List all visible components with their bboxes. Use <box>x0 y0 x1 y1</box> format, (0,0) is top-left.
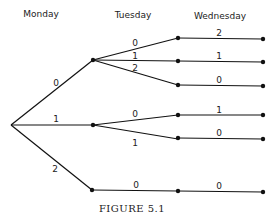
node-end-a2 <box>261 84 265 88</box>
node-wed-c0 <box>176 189 180 193</box>
node-end-b0 <box>261 113 265 117</box>
node-end-a1 <box>261 60 265 64</box>
node-wed-b0 <box>176 113 180 117</box>
label-tue-b0: 0 <box>132 109 138 119</box>
node-tue-b <box>91 123 95 127</box>
edge-wed-a1 <box>178 61 263 62</box>
node-wed-a0 <box>176 36 180 40</box>
node-end-c0 <box>261 190 265 194</box>
node-wed-b1 <box>176 136 180 140</box>
edge-wed-a2 <box>178 85 263 86</box>
edge-tue-b1 <box>93 125 178 139</box>
label-wed-a0: 2 <box>216 28 222 38</box>
label-tue-a2: 2 <box>132 63 138 73</box>
node-end-b1 <box>261 137 265 141</box>
edge-mon-0 <box>11 60 93 125</box>
edge-wed-a0 <box>178 38 263 39</box>
label-wed-a1: 1 <box>216 51 222 61</box>
label-tue-a1: 1 <box>132 51 138 61</box>
label-mon-0: 0 <box>53 78 59 88</box>
node-end-a0 <box>261 37 265 41</box>
edge-mon-2 <box>11 125 92 190</box>
label-mon-1: 1 <box>53 114 59 124</box>
node-wed-a2 <box>176 83 180 87</box>
wednesday-edges <box>178 38 263 192</box>
edge-wed-b1 <box>178 138 263 139</box>
figure-caption: FIGURE 5.1 <box>99 203 165 214</box>
label-tue-c0: 0 <box>133 180 139 190</box>
header-monday: Monday <box>23 9 59 19</box>
label-tue-a0: 0 <box>132 38 138 48</box>
node-tue-c <box>90 188 94 192</box>
label-wed-c0: 0 <box>216 181 222 191</box>
edge-tue-c0 <box>92 190 178 191</box>
edge-wed-c0 <box>178 191 263 192</box>
node-tue-a <box>91 58 95 62</box>
label-mon-2: 2 <box>52 164 58 174</box>
label-wed-b1: 0 <box>216 128 222 138</box>
label-wed-b0: 1 <box>216 105 222 115</box>
label-wed-a2: 0 <box>216 75 222 85</box>
label-tue-b1: 1 <box>132 138 138 148</box>
node-wed-a1 <box>176 59 180 63</box>
tree-diagram: Monday Tuesday Wednesday 0 1 2 0 1 2 0 1… <box>0 0 271 219</box>
header-wednesday: Wednesday <box>194 11 247 21</box>
header-tuesday: Tuesday <box>114 10 152 20</box>
